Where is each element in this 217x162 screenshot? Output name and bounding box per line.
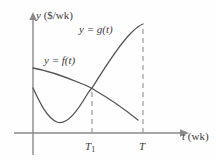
- y-axis-label-units: ($/wk): [44, 9, 73, 21]
- x-axis-label-units: (wk): [188, 130, 209, 142]
- x-axis-label: t (wk): [182, 131, 209, 142]
- y-axis-label: y ($/wk): [36, 10, 73, 21]
- curve-f: [33, 68, 138, 120]
- y-axis-label-var: y: [36, 9, 41, 21]
- x-axis-label-var: t: [182, 130, 185, 142]
- curve-g-label: y = g(t): [79, 24, 113, 35]
- x-tick-label-t: T: [139, 141, 145, 152]
- curve-g: [33, 24, 143, 123]
- curve-f-label: y = f(t): [44, 55, 75, 66]
- math-graph-figure: y ($/wk) t (wk) y = g(t) y = f(t) T1 T: [0, 0, 217, 162]
- x-tick-label-t1-subscript: 1: [91, 145, 95, 154]
- x-tick-label-t1: T1: [85, 141, 95, 154]
- x-axis: [14, 129, 189, 137]
